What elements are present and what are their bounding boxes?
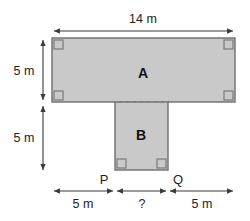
rectangle-a-label: A <box>138 65 148 81</box>
rectangle-a: A <box>52 38 235 102</box>
dimension-bottom-right: 5 m <box>170 191 233 211</box>
dimension-bottom-left-label: 5 m <box>73 197 94 211</box>
dimension-left-upper-label: 5 m <box>14 64 35 78</box>
dimension-top-label: 14 m <box>129 12 157 26</box>
rectangle-b-label: B <box>136 127 146 143</box>
dimension-bottom-middle: ? <box>117 191 166 211</box>
rectangle-b: B <box>115 102 168 170</box>
dimension-left-upper: 5 m <box>14 40 43 100</box>
dimension-top-width: 14 m <box>54 12 233 31</box>
dimension-left-lower-label: 5 m <box>14 131 35 145</box>
dimension-bottom-right-label: 5 m <box>192 197 213 211</box>
geometry-figure: A B P Q 14 m 5 m 5 m <box>0 0 250 221</box>
dimension-bottom-left: 5 m <box>54 191 113 211</box>
figure-canvas: A B P Q 14 m 5 m 5 m <box>0 0 250 221</box>
dimension-bottom-middle-label: ? <box>139 197 146 211</box>
dimension-left-lower: 5 m <box>14 106 43 170</box>
point-label-q: Q <box>173 172 183 187</box>
point-label-p: P <box>100 172 109 187</box>
